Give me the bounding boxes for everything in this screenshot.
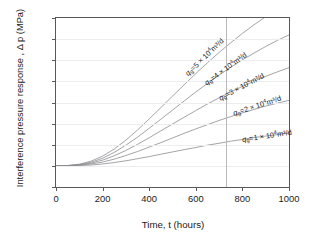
x-tick xyxy=(103,187,104,191)
x-tick-label: 600 xyxy=(188,193,204,204)
x-tick xyxy=(56,187,57,191)
y-axis-title: Interference pressure response , Δ p (MP… xyxy=(15,3,25,193)
y-tick xyxy=(52,124,56,125)
gridline xyxy=(56,60,289,61)
y-tick xyxy=(52,39,56,40)
curve-qg5 xyxy=(56,18,289,166)
x-tick-label: 400 xyxy=(141,193,157,204)
x-tick xyxy=(289,187,290,191)
y-tick xyxy=(52,60,56,61)
gridline xyxy=(56,166,289,167)
x-tick xyxy=(196,187,197,191)
plot-area: -0.0100.010.020.030.040.050.060.07 02004… xyxy=(55,17,290,188)
x-tick-label: 1000 xyxy=(279,193,300,204)
gridline xyxy=(56,145,289,146)
y-tick xyxy=(52,103,56,104)
figure: Interference pressure response , Δ p (MP… xyxy=(0,0,309,240)
y-tick xyxy=(52,81,56,82)
y-tick xyxy=(52,145,56,146)
gridline xyxy=(56,124,289,125)
x-tick-label: 200 xyxy=(95,193,111,204)
x-tick xyxy=(149,187,150,191)
y-tick xyxy=(52,18,56,19)
vertical-reference-line xyxy=(226,18,227,187)
y-tick xyxy=(52,166,56,167)
gridline xyxy=(56,39,289,40)
x-tick xyxy=(242,187,243,191)
x-tick-label: 800 xyxy=(235,193,251,204)
x-axis-title: Time, t (hours) xyxy=(55,219,291,230)
x-tick-label: 0 xyxy=(53,193,58,204)
